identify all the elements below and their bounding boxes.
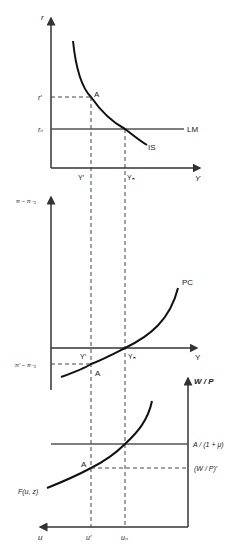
pc-tick-y-n: Yₙ <box>128 353 136 360</box>
pc-curve <box>61 288 178 377</box>
islm-pc-labor-diagram: r Y r′ rₙ Y′ Yₙ A IS LM π − π₋₁ Y π′ − π… <box>0 0 242 555</box>
pc-y-axis-label: π − π₋₁ <box>16 198 36 204</box>
pc-tick-y-prime: Y′ <box>80 353 87 360</box>
point-a-labor: A <box>81 460 87 469</box>
tick-wp-prime: (W / P)′ <box>194 465 218 473</box>
tick-pi-prime: π′ − π₋₁ <box>15 362 36 368</box>
tick-y-prime: Y′ <box>78 174 85 181</box>
f-label: F(u, z) <box>18 488 38 496</box>
point-a-pc: A <box>95 369 101 378</box>
point-a-islm: A <box>94 90 100 99</box>
pc-x-axis-label: Y <box>195 353 201 362</box>
tick-r-n: rₙ <box>38 126 43 133</box>
panel-islm: r Y r′ rₙ Y′ Yₙ A IS LM <box>38 13 201 183</box>
panel-pc: π − π₋₁ Y π′ − π₋₁ Y′ Yₙ A PC <box>15 197 201 390</box>
islm-x-axis-label: Y <box>195 174 201 183</box>
tick-u-n: uₙ <box>121 534 128 541</box>
tick-r-prime: r′ <box>38 94 42 101</box>
islm-y-axis-label: r <box>41 13 44 22</box>
labor-y-axis-label: W / P <box>194 377 214 386</box>
labor-x-axis-label: u <box>38 533 43 542</box>
is-label: IS <box>148 143 156 152</box>
tick-markup: A / (1 + μ) <box>192 441 224 449</box>
tick-y-n: Yₙ <box>127 174 135 181</box>
panel-labor: W / P u A / (1 + μ) (W / P)′ u′ uₙ A F(u… <box>18 377 224 542</box>
lm-label: LM <box>187 125 198 134</box>
tick-u-prime: u′ <box>86 534 92 541</box>
pc-label: PC <box>182 278 193 287</box>
